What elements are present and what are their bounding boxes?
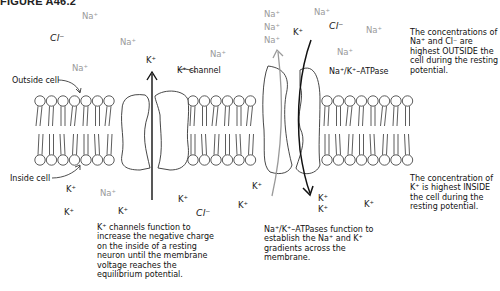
lipid-tail (212, 106, 214, 126)
lipid-tail (109, 106, 111, 126)
note-outside-concentration: The concentrations of Na⁺ and Cl⁻ are hi… (410, 28, 500, 75)
lipid-tail (99, 134, 100, 155)
k-efflux-arrow (147, 72, 157, 200)
lipid-head (222, 155, 232, 165)
lipid-tail (95, 134, 96, 155)
lipid-head (356, 155, 366, 165)
lipid-tail (49, 106, 50, 126)
lipid-head (35, 96, 45, 106)
lipid-head (356, 96, 366, 106)
lipid-tail (229, 106, 230, 126)
na-k-atpase (263, 66, 320, 174)
ion-na: Na⁺ (100, 189, 116, 198)
lipid-head (104, 155, 114, 165)
lipid-head (391, 96, 401, 106)
lipid-tail (348, 134, 349, 155)
ion-k: K⁺ (118, 207, 128, 216)
lipid-tail (107, 134, 108, 155)
lipid-head (188, 96, 198, 106)
lipid-tail (71, 106, 73, 126)
lipid-head (368, 155, 378, 165)
ion-na: Na⁺ (264, 23, 280, 32)
lipid-tail (240, 134, 241, 155)
ion-cl: Cl⁻ (329, 21, 343, 31)
lipid-tail (36, 106, 38, 126)
lipid-tail (206, 134, 207, 155)
lipid-head (234, 155, 244, 165)
lipid-tail (216, 106, 218, 126)
inside-cell-pointer (52, 165, 80, 178)
note-inside-concentration: The concentration of K⁺ is highest INSID… (410, 174, 500, 212)
ion-na: Na⁺ (314, 8, 330, 17)
lipid-head (333, 96, 343, 106)
lipid-tail (370, 134, 371, 155)
lipid-head (333, 155, 343, 165)
lipid-head (245, 155, 255, 165)
ion-k: K⁺ (64, 208, 74, 217)
lipid-tail (346, 106, 348, 126)
lipid-tail (194, 106, 195, 126)
lipid-tail (249, 134, 250, 155)
lipid-tail (387, 134, 388, 155)
k-channel-label: K⁺ channel (177, 66, 221, 75)
lipid-tail (247, 106, 249, 126)
note-pump-function: Na⁺/K⁺–ATPases function to establish the… (264, 225, 382, 263)
lipid-tail (251, 106, 253, 126)
pump-right-subunit (296, 68, 320, 174)
ion-na: Na⁺ (72, 64, 88, 73)
lipid-tail (352, 134, 353, 155)
lipid-tail (374, 134, 375, 155)
ion-k: K⁺ (364, 200, 374, 209)
k-channel-right-subunit (155, 91, 189, 170)
lipid-tail (60, 134, 61, 155)
lipid-head (58, 96, 68, 106)
lipid-tail (83, 106, 84, 126)
lipid-tail (77, 134, 78, 155)
ion-na: Na⁺ (366, 26, 382, 35)
lipid-head (222, 96, 232, 106)
ion-k: K⁺ (238, 201, 248, 210)
k-channel (122, 91, 189, 170)
lipid-head (368, 96, 378, 106)
ion-k: K⁺ (318, 194, 328, 203)
lipid-head (379, 155, 389, 165)
ion-na: Na⁺ (210, 50, 226, 59)
lipid-tail (363, 106, 364, 126)
lipid-tail (40, 106, 42, 126)
lipid-head (69, 155, 79, 165)
ion-k: K⁺ (293, 28, 303, 37)
lipid-head (104, 96, 114, 106)
lipid-head (345, 155, 355, 165)
ion-k: K⁺ (66, 185, 76, 194)
lipid-head (211, 155, 221, 165)
lipid-head (69, 96, 79, 106)
lipid-head (35, 155, 45, 165)
ion-k: K⁺ (318, 205, 328, 214)
lipid-head (211, 96, 221, 106)
lipid-head (402, 155, 412, 165)
lipid-head (234, 96, 244, 106)
lipid-tail (336, 134, 337, 155)
lipid-head (58, 155, 68, 165)
lipid-tail (359, 106, 360, 126)
ion-na: Na⁺ (120, 38, 136, 47)
lipid-tail (381, 106, 383, 126)
ion-na: Na⁺ (264, 36, 280, 45)
ion-k: K⁺ (178, 195, 188, 204)
lipid-tail (214, 134, 215, 155)
lipid-head (92, 155, 102, 165)
lipid-head (199, 155, 209, 165)
lipid-tail (225, 106, 226, 126)
lipid-head (379, 96, 389, 106)
lipid-tail (38, 134, 39, 155)
lipid-tail (105, 106, 107, 126)
lipid-head (391, 155, 401, 165)
lipid-head (402, 96, 412, 106)
lipid-tail (324, 106, 325, 126)
ion-na: Na⁺ (337, 48, 353, 57)
ion-na: Na⁺ (264, 10, 280, 19)
lipid-tail (340, 134, 341, 155)
lipid-tail (202, 134, 203, 155)
lipid-head (81, 96, 91, 106)
inside-cell-label: Inside cell (10, 174, 50, 183)
